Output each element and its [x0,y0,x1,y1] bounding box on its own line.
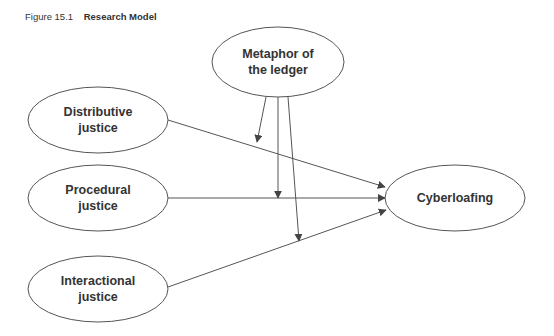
distributive-label-line2: justice [64,120,133,136]
moderator-label: Metaphor of the ledger [242,46,314,78]
moderator-interactional-arrow [288,97,299,241]
procedural-label-line2: justice [65,198,130,214]
interactional-to-cyberloafing-arrow [168,210,386,287]
procedural-label: Procedural justice [65,182,130,214]
cyberloafing-label-line1: Cyberloafing [417,190,493,206]
procedural-label-line1: Procedural [65,182,130,198]
distributive-label: Distributive justice [64,104,133,136]
cyberloafing-label: Cyberloafing [417,190,493,206]
moderator-label-line2: the ledger [242,62,314,78]
interactional-label-line1: Interactional [61,273,135,289]
distributive-label-line1: Distributive [64,104,133,120]
interactional-label: Interactional justice [61,273,135,305]
interactional-label-line2: justice [61,289,135,305]
moderator-distributive-arrow [257,97,266,142]
moderator-label-line1: Metaphor of [242,46,314,62]
distributive-to-cyberloafing-arrow [168,120,385,187]
